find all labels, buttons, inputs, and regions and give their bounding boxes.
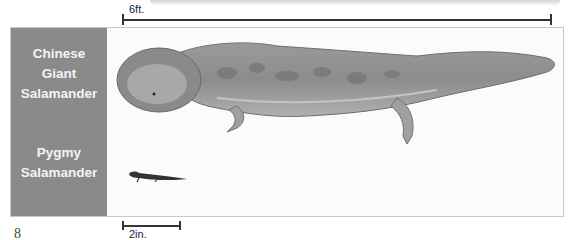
label-line: Salamander	[11, 163, 107, 183]
scale-label-6ft: 6ft.	[129, 3, 144, 15]
pygmy-salamander-illustration	[127, 168, 189, 184]
label-line: Salamander	[11, 84, 107, 104]
species-label-column: Chinese Giant Salamander Pygmy Salamande…	[11, 28, 107, 216]
label-line: Giant	[11, 64, 107, 84]
label-line: Pygmy	[11, 143, 107, 163]
page-mark: 8	[14, 226, 21, 240]
species-label-pygmy: Pygmy Salamander	[11, 143, 107, 183]
label-line: Chinese	[11, 44, 107, 64]
top-shadow	[150, 0, 560, 6]
scale-label-2in: 2in.	[129, 228, 147, 240]
comparison-panel: Chinese Giant Salamander Pygmy Salamande…	[10, 27, 564, 217]
scale-tick-right	[550, 14, 552, 25]
scale-line	[122, 225, 180, 227]
scale-tick-right	[179, 221, 181, 230]
scale-line	[122, 19, 551, 21]
species-label-giant: Chinese Giant Salamander	[11, 44, 107, 104]
giant-salamander-illustration	[107, 28, 563, 158]
